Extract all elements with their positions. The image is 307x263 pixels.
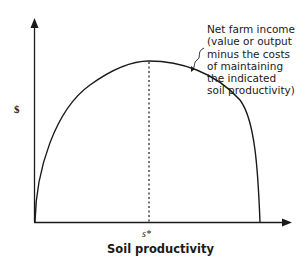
annotation-line: the indicated [207, 72, 295, 84]
annotation-line: soil productivity) [207, 84, 295, 96]
annotation-line: of maintaining [207, 60, 295, 72]
annotation-line: (value or output [207, 35, 295, 47]
y-axis-arrow-icon [31, 18, 39, 28]
annotation-pointer [192, 48, 204, 70]
annotation-line: Net farm income [207, 23, 295, 35]
x-axis-label: Soil productivity [107, 242, 214, 256]
curve-annotation: Net farm income (value or output minus t… [207, 23, 295, 97]
annotation-line: minus the costs [207, 48, 295, 60]
y-axis-label: $ [14, 103, 20, 115]
optimum-label: s* [142, 228, 151, 239]
x-axis-arrow-icon [282, 219, 292, 227]
